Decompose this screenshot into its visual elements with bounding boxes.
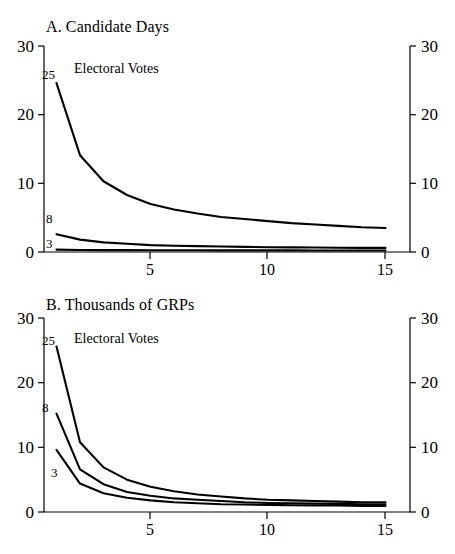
- panel-b-series-25: [57, 346, 386, 502]
- panel-a-ytick-left-20: 20: [0, 106, 34, 123]
- panel-b-ytick-right-20: 20: [421, 374, 455, 391]
- panel-a-ytick-right-10: 10: [421, 175, 455, 192]
- panel-a-series-label-25: 25: [42, 68, 55, 81]
- panel-a-series-label-3: 3: [46, 237, 53, 250]
- panel-a-series-3: [57, 250, 386, 251]
- panel-a-ytick-left-10: 10: [0, 175, 34, 192]
- panel-b-xtick-10: 10: [247, 521, 287, 538]
- panel-a-series-8: [57, 234, 386, 248]
- panel-b-xtick-5: 5: [130, 521, 170, 538]
- panel-b-ytick-right-10: 10: [421, 439, 455, 456]
- panel-a-xtick-15: 15: [365, 261, 405, 278]
- panel-b-thousands-of-grps: B. Thousands of GRPs: [0, 286, 455, 554]
- panel-b-ytick-left-0: 0: [0, 504, 34, 521]
- panel-a-plot-area: [0, 0, 455, 288]
- panel-b-legend-title: Electoral Votes: [74, 332, 159, 346]
- panel-b-ytick-right-0: 0: [421, 504, 455, 521]
- panel-a-xtick-5: 5: [130, 261, 170, 278]
- panel-a-ytick-left-30: 30: [0, 38, 34, 55]
- panel-b-ytick-left-20: 20: [0, 374, 34, 391]
- panel-b-ytick-right-30: 30: [421, 310, 455, 327]
- figure-two-panel-line-charts: A. Candidate Days: [0, 0, 455, 554]
- panel-b-series: [57, 346, 386, 505]
- panel-b-series-label-3: 3: [51, 466, 58, 479]
- panel-b-xtick-15: 15: [365, 521, 405, 538]
- panel-a-ytick-left-0: 0: [0, 244, 34, 261]
- panel-b-series-label-8: 8: [42, 401, 49, 414]
- panel-b-ytick-left-30: 30: [0, 310, 34, 327]
- panel-a-candidate-days: A. Candidate Days: [0, 0, 455, 288]
- panel-a-series-label-8: 8: [46, 212, 53, 225]
- panel-a-series: [57, 83, 386, 250]
- panel-a-legend-title: Electoral Votes: [74, 62, 159, 76]
- panel-a-ytick-right-20: 20: [421, 106, 455, 123]
- panel-b-ytick-left-10: 10: [0, 439, 34, 456]
- panel-b-series-8: [57, 414, 386, 505]
- panel-b-series-label-25: 25: [42, 334, 55, 347]
- panel-a-ytick-right-30: 30: [421, 38, 455, 55]
- panel-a-series-25: [57, 83, 386, 228]
- panel-a-xtick-10: 10: [247, 261, 287, 278]
- panel-b-plot-area: [0, 286, 455, 554]
- panel-a-ytick-right-0: 0: [421, 244, 455, 261]
